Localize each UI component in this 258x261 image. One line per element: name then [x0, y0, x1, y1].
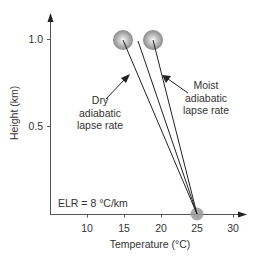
x-axis: [50, 212, 247, 218]
dry-annotation-line2: adiabatic: [72, 107, 128, 120]
dry-annotation: Dry adiabatic lapse rate: [72, 94, 128, 132]
x-axis-arrow-icon: [238, 212, 247, 218]
y-axis-label: Height (km): [8, 86, 20, 140]
dry-annotation-line1: Dry: [72, 94, 128, 107]
dry-annotation-line3: lapse rate: [72, 119, 128, 132]
elr-line: [138, 41, 197, 214]
x-tick-25: 25: [191, 222, 203, 234]
x-axis-label: Temperature (°C): [110, 238, 191, 250]
elr-label: ELR = 8 °C/km: [58, 197, 128, 209]
moist-annotation-line1: Moist: [178, 79, 234, 92]
x-tick-10: 10: [81, 222, 93, 234]
x-tick-30: 30: [227, 222, 239, 234]
x-tick-15: 15: [118, 222, 130, 234]
moist-annotation: Moist adiabatic lapse rate: [178, 79, 234, 117]
x-tick-20: 20: [155, 222, 167, 234]
y-axis-arrow-icon: [48, 13, 54, 22]
y-tick-1.0: 1.0: [13, 33, 43, 45]
y-axis: [47, 13, 54, 214]
lapse-rate-diagram: 1.0 0.5 10 15 20 25 30 Temperature (°C) …: [0, 0, 258, 261]
moist-annotation-line3: lapse rate: [178, 104, 234, 117]
moist-annotation-line2: adiabatic: [178, 92, 234, 105]
